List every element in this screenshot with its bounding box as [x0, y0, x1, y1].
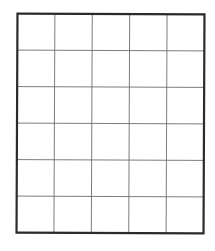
grid-horizontal-line: [17, 87, 204, 88]
grid-horizontal-line: [17, 50, 204, 51]
grid-inner-lines: [17, 14, 205, 234]
grid-drawing: [16, 13, 206, 235]
blank-grid: [16, 13, 206, 235]
grid-horizontal-line: [17, 123, 204, 124]
grid-horizontal-line: [17, 160, 204, 161]
grid-horizontal-line: [17, 196, 204, 197]
